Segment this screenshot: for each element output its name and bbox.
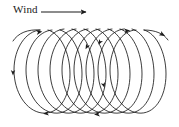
wind-trajectory-figure: Wind <box>0 0 179 127</box>
trajectory-loops <box>13 29 168 113</box>
trajectory-diagram <box>0 0 179 127</box>
